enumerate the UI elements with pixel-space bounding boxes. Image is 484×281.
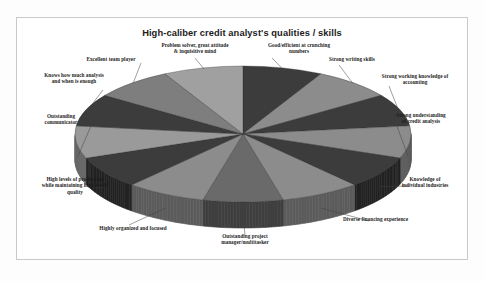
pie-slice-side — [237, 202, 240, 228]
pie-slice-side — [304, 197, 307, 223]
pie-slice-side — [146, 190, 149, 217]
pie-slice-side — [313, 195, 316, 222]
chart-frame: High-caliber credit analyst's qualities … — [16, 17, 468, 260]
pie-slice-side — [350, 186, 352, 213]
pie-chart-area[interactable]: Problem solver, great attitude& inquisit… — [17, 18, 469, 261]
pie-slice-side — [342, 188, 345, 215]
pie-slice-side — [289, 199, 292, 225]
pie-slice-side — [265, 201, 268, 227]
pie-slice-side — [298, 198, 301, 224]
pie-slice-side — [246, 202, 249, 228]
pie-slice-side — [227, 202, 230, 228]
pie-slice-side — [370, 178, 372, 205]
screenshot-root: High-caliber credit analyst's qualities … — [0, 0, 484, 281]
pie-slice-side — [141, 188, 144, 215]
slice-label-outstanding-communicator: Outstandingcommunicator — [21, 113, 101, 126]
pie-slice-side — [363, 180, 365, 207]
pie-slice-side — [171, 195, 174, 222]
pie-slice-side — [188, 198, 191, 224]
pie-slice-side — [134, 186, 136, 213]
pie-slice-side — [295, 198, 298, 224]
pie-slice-side — [249, 202, 252, 228]
slice-label-high-levels: High levels of productionwhile maintaini… — [19, 176, 131, 195]
pie-slice-side — [194, 199, 197, 225]
pie-slice-side — [286, 199, 289, 225]
pie-slice-side — [366, 180, 368, 207]
pie-slice-side — [347, 187, 349, 214]
pie-slice-side — [318, 194, 321, 221]
pie-slice-side — [274, 201, 277, 227]
pie-slice-side — [206, 200, 209, 226]
pie-slice-side — [255, 202, 258, 228]
pie-slice-side — [215, 201, 218, 227]
slice-label-highly-organized: Highly organized and focused — [79, 225, 187, 231]
pie-slice-side — [301, 197, 304, 223]
pie-slice-side — [368, 179, 370, 206]
pie-slice-side — [173, 196, 176, 223]
pie-slice-side — [252, 202, 255, 228]
leader-line — [195, 58, 204, 69]
pie-slice-side — [176, 196, 179, 222]
slice-label-strong-accounting: Strong working knowledge ofaccounting — [365, 73, 465, 86]
pie-slice-side — [162, 194, 165, 221]
pie-slice-side — [361, 181, 363, 208]
slice-label-excellent-team: Excellent team player — [65, 56, 157, 62]
pie-slice-side — [197, 199, 200, 225]
pie-slice-side — [203, 200, 206, 226]
pie-slice-side — [315, 195, 318, 222]
pie-slice-side — [327, 192, 330, 219]
pie-slice-side — [321, 194, 324, 221]
pie-slice-side — [240, 202, 243, 228]
pie-slice-side — [359, 182, 361, 209]
pie-slice-side — [212, 201, 215, 227]
pie-slice-side — [277, 200, 280, 226]
pie-slice-side — [182, 197, 185, 223]
pie-slice-side — [231, 202, 234, 228]
pie-slice-side — [357, 183, 359, 210]
slice-label-problem-solver: Problem solver, great attitude& inquisit… — [147, 42, 243, 55]
pie-slice-side — [352, 185, 354, 212]
pie-slice-side — [165, 194, 168, 221]
pie-slice-side — [159, 193, 162, 220]
slice-label-good-efficient: Good/efficient at crunchingnumbers — [255, 42, 343, 55]
pie-slice-side — [185, 198, 188, 224]
pie-slice-side — [154, 192, 157, 219]
pie-slice-side — [259, 202, 262, 228]
pie-slice-side — [234, 202, 237, 228]
pie-slice-side — [218, 201, 221, 227]
pie-slice-side — [132, 185, 134, 212]
pie-slice-side — [329, 192, 332, 219]
slice-label-outstanding-project: Outstanding projectmanager/multitasker — [197, 233, 293, 246]
pie-slice-side — [283, 200, 286, 226]
pie-slice-side — [354, 184, 356, 211]
pie-slice-side — [335, 190, 338, 217]
pie-slice-side — [280, 200, 283, 226]
pie-slice-side — [191, 199, 194, 225]
pie-slice-side — [209, 201, 212, 227]
pie-slice-side — [139, 187, 141, 214]
pie-slice-side — [149, 190, 152, 217]
pie-slice-side — [307, 196, 310, 222]
pie-slice-side — [310, 196, 313, 223]
slice-label-strong-credit: Strong understandingof credit analysis — [379, 112, 463, 125]
pie-slice-side — [200, 200, 203, 226]
pie-slice-side — [144, 189, 147, 216]
pie-slice-side — [345, 187, 347, 214]
pie-slice-side — [292, 199, 295, 225]
pie-slice-side — [324, 193, 327, 220]
slice-label-knowledge-industries: Knowledge ofindividual industries — [385, 176, 465, 189]
pie-slice-side — [221, 201, 224, 227]
pie-slice-side — [243, 202, 246, 228]
pie-slice-side — [340, 189, 343, 216]
pie-slice-side — [157, 192, 160, 219]
pie-slice-side — [332, 191, 335, 218]
slice-label-knows-analysis: Knows how much analysisand when is enoug… — [25, 72, 123, 85]
pie-slice-side — [262, 201, 265, 227]
pie-slice-side — [168, 195, 171, 222]
pie-slice-side — [271, 201, 274, 227]
slice-label-strong-writing: Strong writing skills — [329, 56, 415, 62]
pie-slice-side — [179, 197, 182, 223]
pie-slice-side — [268, 201, 271, 227]
pie-slice-side — [136, 187, 138, 214]
pie-slice-side — [224, 202, 227, 228]
